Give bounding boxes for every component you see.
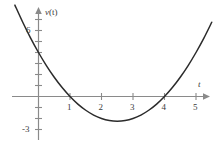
velocity-graph-figure: v(t) t 6 -3 1 2 3 4 5: [0, 0, 216, 144]
y-axis-arrow-icon: [35, 7, 42, 14]
x-axis-arrow-icon: [203, 93, 210, 100]
plot-canvas: [0, 0, 216, 144]
x-tick-label-5: 5: [193, 103, 198, 112]
parabola-curve: [15, 5, 212, 121]
x-tick-label-2: 2: [99, 103, 104, 112]
y-axis-label: v(t): [45, 8, 58, 17]
x-tick-label-4: 4: [162, 103, 167, 112]
y-tick-label-6: 6: [26, 26, 31, 35]
y-tick-label-neg3: -3: [22, 125, 30, 134]
x-tick-label-1: 1: [67, 103, 72, 112]
x-tick-label-3: 3: [130, 103, 135, 112]
y-axis-label-arg: (t): [49, 7, 58, 17]
x-axis-label: t: [198, 80, 201, 89]
